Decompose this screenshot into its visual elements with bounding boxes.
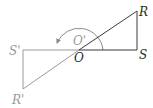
image-triangle (23, 50, 79, 89)
rotation-diagram: R S O O' S' R' (0, 0, 153, 108)
segment-r-o (79, 11, 137, 50)
label-r: R (138, 5, 148, 19)
label-s-prime: S' (9, 44, 21, 58)
label-o: O (74, 51, 84, 65)
label-s: S (139, 48, 147, 62)
segment-r-prime-o (23, 50, 79, 89)
original-triangle (79, 11, 137, 50)
label-r-prime: R' (11, 93, 24, 107)
label-o-prime: O' (73, 34, 86, 48)
